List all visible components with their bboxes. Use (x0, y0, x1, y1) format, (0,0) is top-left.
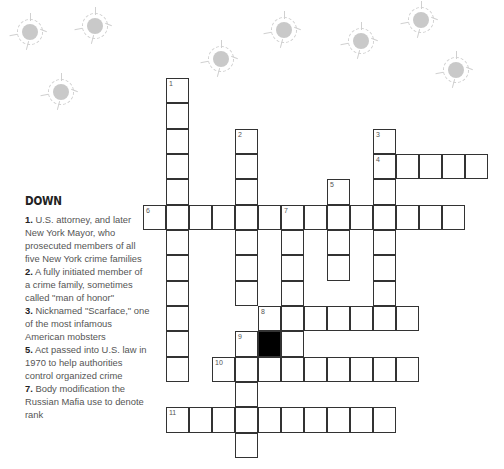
crossword-cell[interactable] (373, 357, 396, 382)
down-clue-list: 1. U.S. attorney, and later New York May… (25, 213, 150, 421)
crossword-cell[interactable] (166, 331, 189, 356)
crossword-cell[interactable]: 1 (166, 78, 189, 103)
crossword-cell[interactable] (327, 357, 350, 382)
crossword-cell[interactable] (235, 382, 258, 407)
cell-number: 4 (376, 156, 380, 163)
crossword-cell[interactable] (396, 205, 419, 230)
crossword-cell[interactable] (212, 407, 235, 432)
crossword-cell[interactable] (350, 407, 373, 432)
clue-text: Nicknamed "Scarface," one of the most in… (25, 305, 149, 342)
clue-text: Act passed into U.S. law in 1970 to help… (25, 344, 146, 381)
clue-text: Body modification the Russian Mafia use … (25, 383, 144, 420)
clue-number: 1. (25, 214, 33, 225)
cell-number: 11 (169, 409, 176, 416)
crossword-cell[interactable] (304, 306, 327, 331)
crossword-cell[interactable]: 9 (235, 331, 258, 356)
crossword-cell[interactable] (327, 306, 350, 331)
crossword-cell[interactable]: 11 (166, 407, 189, 432)
crossword-cell[interactable] (235, 357, 258, 382)
crossword-cell[interactable] (281, 357, 304, 382)
crossword-cell[interactable] (235, 230, 258, 255)
cell-number: 9 (238, 333, 242, 340)
crossword-cell[interactable] (235, 433, 258, 458)
bullet-hole-icon (406, 5, 436, 35)
bullet-hole-icon (441, 55, 471, 85)
crossword-cell[interactable] (281, 230, 304, 255)
crossword-cell[interactable] (373, 407, 396, 432)
crossword-cell[interactable] (350, 205, 373, 230)
cell-number: 3 (376, 131, 380, 138)
crossword-cell[interactable] (442, 154, 465, 179)
crossword-cell[interactable] (281, 407, 304, 432)
crossword-cell[interactable] (166, 357, 189, 382)
bullet-hole-icon (206, 44, 236, 74)
crossword-cell[interactable] (166, 179, 189, 204)
crossword-cell[interactable] (235, 205, 258, 230)
crossword-cell[interactable]: 7 (281, 205, 304, 230)
crossword-cell[interactable] (235, 281, 258, 306)
down-clue-item: 1. U.S. attorney, and later New York May… (25, 213, 150, 265)
crossword-cell[interactable] (350, 357, 373, 382)
clue-number: 7. (25, 383, 33, 394)
crossword-cell[interactable] (166, 103, 189, 128)
crossword-cell[interactable] (304, 357, 327, 382)
crossword-cell[interactable]: 3 (373, 129, 396, 154)
crossword-cell[interactable] (327, 230, 350, 255)
cell-number: 7 (284, 207, 288, 214)
crossword-cell[interactable] (166, 154, 189, 179)
crossword-cell[interactable]: 10 (212, 357, 235, 382)
cell-number: 5 (330, 181, 334, 188)
crossword-cell[interactable] (304, 407, 327, 432)
crossword-cell[interactable] (304, 205, 327, 230)
crossword-cell[interactable] (396, 306, 419, 331)
crossword-cell[interactable]: 2 (235, 129, 258, 154)
crossword-cell[interactable] (281, 281, 304, 306)
crossword-cell[interactable] (189, 407, 212, 432)
crossword-cell[interactable] (373, 281, 396, 306)
crossword-cell[interactable] (350, 306, 373, 331)
crossword-cell[interactable] (235, 407, 258, 432)
crossword-cell[interactable] (373, 179, 396, 204)
crossword-cell[interactable]: 4 (373, 154, 396, 179)
crossword-cell[interactable] (373, 205, 396, 230)
crossword-cell[interactable] (258, 205, 281, 230)
crossword-cell[interactable] (258, 357, 281, 382)
bullet-hole-icon (346, 26, 376, 56)
crossword-cell[interactable] (281, 255, 304, 280)
crossword-cell[interactable] (419, 205, 442, 230)
clue-number: 2. (25, 266, 33, 277)
crossword-cell[interactable] (465, 154, 488, 179)
crossword-cell[interactable] (166, 306, 189, 331)
crossword-cell[interactable] (166, 230, 189, 255)
crossword-cell[interactable] (373, 255, 396, 280)
crossword-cell[interactable] (442, 205, 465, 230)
crossword-cell[interactable] (258, 407, 281, 432)
crossword-cell[interactable]: 5 (327, 179, 350, 204)
crossword-cell[interactable] (166, 129, 189, 154)
crossword-cell[interactable] (373, 306, 396, 331)
crossword-cell[interactable] (235, 255, 258, 280)
crossword-cell[interactable] (419, 154, 442, 179)
crossword-cell[interactable] (235, 179, 258, 204)
crossword-cell[interactable] (212, 205, 235, 230)
crossword-cell[interactable] (396, 154, 419, 179)
crossword-cell[interactable]: 8 (258, 306, 281, 331)
crossword-cell[interactable] (189, 205, 212, 230)
black-cell (258, 331, 281, 356)
down-clue-item: 2. A fully initiated member of a crime f… (25, 265, 150, 304)
crossword-cell[interactable] (166, 205, 189, 230)
crossword-cell[interactable] (235, 154, 258, 179)
cell-number: 2 (238, 131, 242, 138)
crossword-cell[interactable] (281, 331, 304, 356)
crossword-cell[interactable] (327, 255, 350, 280)
crossword-cell[interactable] (281, 306, 304, 331)
crossword-cell[interactable] (166, 281, 189, 306)
clue-text: U.S. attorney, and later New York Mayor,… (25, 214, 142, 264)
crossword-cell[interactable] (373, 230, 396, 255)
crossword-cell[interactable] (327, 205, 350, 230)
crossword-cell[interactable] (166, 255, 189, 280)
crossword-cell[interactable] (327, 407, 350, 432)
crossword-cell[interactable] (396, 357, 419, 382)
clue-number: 5. (25, 344, 33, 355)
down-heading: DOWN (25, 193, 125, 208)
